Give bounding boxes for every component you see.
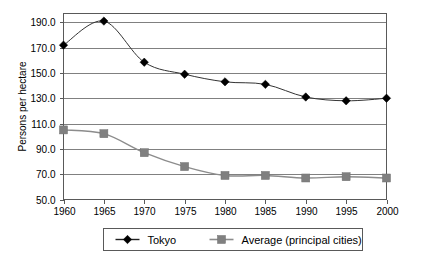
legend: TokyoAverage (principal cities) (104, 229, 363, 251)
data-point-marker (100, 130, 108, 138)
data-point-marker (181, 163, 189, 171)
data-point-marker (221, 171, 229, 179)
data-point-marker (60, 126, 68, 134)
x-axis-tick-label: 1995 (335, 206, 358, 217)
data-point-marker (218, 236, 226, 244)
y-axis-title: Persons per hectare (17, 61, 28, 151)
x-axis-tick-label: 2000 (376, 206, 399, 217)
y-axis-tick-label: 170.0 (30, 43, 55, 54)
y-axis-tick-label: 70.0 (36, 169, 56, 180)
legend-label: Tokyo (148, 234, 177, 246)
data-point-marker (140, 149, 148, 157)
x-axis-tick-labels: 196019651970197519801985199019952000 (53, 200, 399, 217)
x-axis-tick-label: 1970 (133, 206, 156, 217)
chart-container: 50.070.090.0110.0130.0150.0170.0190.0196… (0, 0, 430, 254)
x-axis-tick-label: 1960 (53, 206, 76, 217)
x-axis-tick-label: 1975 (174, 206, 197, 217)
legend-label: Average (principal cities) (242, 234, 362, 246)
y-axis-tick-label: 150.0 (30, 68, 55, 79)
data-point-marker (342, 173, 350, 181)
line-chart: 50.070.090.0110.0130.0150.0170.0190.0196… (0, 0, 430, 254)
x-axis-tick-label: 1990 (295, 206, 318, 217)
y-axis-tick-label: 50.0 (36, 195, 56, 206)
y-axis-tick-label: 130.0 (30, 93, 55, 104)
data-point-marker (383, 174, 391, 182)
data-point-marker (261, 171, 269, 179)
x-axis-tick-label: 1965 (93, 206, 116, 217)
x-axis-tick-label: 1980 (214, 206, 237, 217)
y-axis-tick-label: 110.0 (31, 119, 56, 130)
y-axis-tick-labels: 50.070.090.0110.0130.0150.0170.0190.0 (30, 17, 55, 206)
data-point-marker (302, 174, 310, 182)
y-axis-tick-label: 90.0 (36, 144, 56, 155)
x-axis-tick-label: 1985 (254, 206, 277, 217)
y-axis-tick-label: 190.0 (30, 17, 55, 28)
